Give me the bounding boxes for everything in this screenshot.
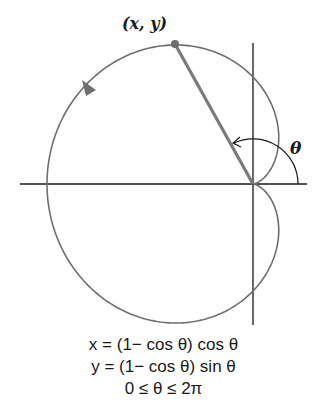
theta-arc (234, 139, 298, 184)
parametric-equations: x = (1− cos θ) cos θ y = (1− cos θ) sin … (0, 334, 327, 400)
equation-x: x = (1− cos θ) cos θ (0, 334, 327, 356)
angle-label: θ (290, 138, 301, 158)
point-marker (171, 40, 179, 48)
equation-y: y = (1− cos θ) sin θ (0, 356, 327, 378)
point-label: (x, y) (122, 14, 167, 33)
parameter-range: 0 ≤ θ ≤ 2π (0, 378, 327, 400)
radius-line (175, 44, 253, 184)
